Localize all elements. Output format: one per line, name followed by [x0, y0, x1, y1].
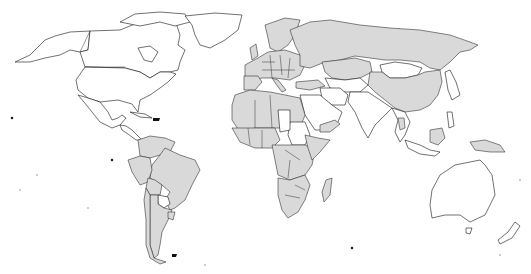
country-madagascar[interactable] [322, 178, 332, 202]
falkland-islands [172, 254, 177, 257]
hispaniola [153, 118, 160, 121]
country-papua-new-guinea[interactable] [470, 140, 505, 152]
pacific-island [19, 189, 21, 191]
world-map [0, 0, 531, 274]
country-malaysia-borneo[interactable] [430, 128, 445, 145]
galapagos [111, 159, 113, 161]
central-america[interactable] [120, 125, 142, 140]
country-kazakhstan[interactable] [322, 58, 372, 80]
pacific-island [499, 254, 501, 256]
country-uruguay[interactable] [168, 212, 175, 220]
oceania [405, 112, 520, 244]
hawaii [11, 117, 13, 119]
south-america [128, 136, 200, 264]
country-australia[interactable] [430, 160, 495, 222]
caribbean-islands [130, 112, 152, 118]
country-libya-chad[interactable] [278, 110, 290, 132]
kerguelen [351, 247, 353, 249]
north-america [15, 12, 242, 140]
country-philippines[interactable] [447, 112, 454, 128]
country-alaska[interactable] [15, 31, 90, 62]
country-new-zealand[interactable] [498, 222, 520, 244]
country-greenland[interactable] [185, 13, 242, 48]
south-georgia [204, 264, 206, 266]
country-italy[interactable] [272, 78, 286, 92]
country-uk[interactable] [250, 44, 258, 60]
region-southern-africa[interactable] [278, 175, 310, 218]
pacific-island [519, 179, 521, 181]
country-korea-japan[interactable] [445, 70, 460, 100]
country-iberia[interactable] [244, 76, 262, 90]
pacific-island [36, 174, 38, 176]
country-tasmania[interactable] [466, 228, 472, 234]
pacific-island [87, 207, 89, 209]
country-russia[interactable] [290, 20, 478, 70]
